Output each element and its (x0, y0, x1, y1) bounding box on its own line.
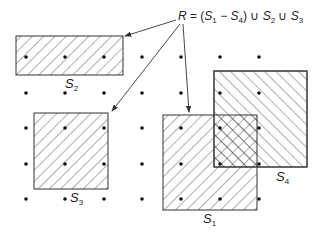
equation: R = (S1 − S4) ∪ S2 ∪ S3 (178, 9, 304, 25)
label-s1: S1 (203, 211, 217, 228)
set-diagram: R = (S1 − S4) ∪ S2 ∪ S3 S2 S3 S1 S4 (0, 0, 324, 234)
arrows (112, 20, 189, 112)
set-s3 (34, 113, 108, 189)
label-s3: S3 (70, 190, 84, 207)
label-s4: S4 (276, 169, 290, 186)
set-s2 (16, 36, 123, 75)
intersection-s1-s4 (214, 115, 257, 167)
label-s2: S2 (65, 76, 79, 93)
